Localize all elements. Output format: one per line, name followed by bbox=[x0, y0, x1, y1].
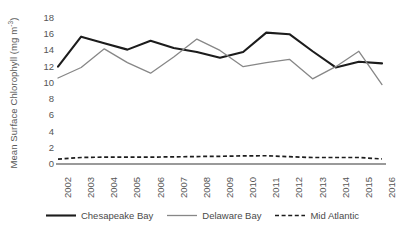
dashed-black-line-icon bbox=[275, 211, 305, 220]
legend-label: Chesapeake Bay bbox=[81, 210, 153, 221]
y-axis-title-suffix: ) bbox=[8, 17, 19, 20]
y-axis-title-exponent: -3 bbox=[7, 21, 14, 27]
y-axis-title-text: Mean Surface Chlorophyll (mg m bbox=[8, 27, 19, 169]
series-container bbox=[58, 18, 382, 164]
y-tick-label: 18 bbox=[34, 13, 54, 23]
y-tick-label: 14 bbox=[34, 45, 54, 55]
x-tick-label: 2003 bbox=[85, 164, 96, 198]
x-tick-label: 2012 bbox=[293, 164, 304, 198]
y-tick-label: 2 bbox=[34, 143, 54, 153]
y-tick-label: 8 bbox=[34, 94, 54, 104]
x-tick-label: 2005 bbox=[131, 164, 142, 198]
y-axis-tick-labels: 024681012141618 bbox=[34, 18, 54, 164]
x-tick-label: 2010 bbox=[247, 164, 258, 198]
x-tick-label: 2004 bbox=[108, 164, 119, 198]
legend-label: Mid Atlantic bbox=[310, 210, 359, 221]
legend-item-mid-atlantic[interactable]: Mid Atlantic bbox=[275, 210, 359, 221]
x-tick-label: 2009 bbox=[224, 164, 235, 198]
solid-thick-black-line-icon bbox=[46, 211, 76, 220]
x-tick-label: 2002 bbox=[62, 164, 73, 198]
x-tick-label: 2015 bbox=[363, 164, 374, 198]
x-axis-line bbox=[56, 163, 386, 165]
y-tick-label: 10 bbox=[34, 78, 54, 88]
legend-label: Delaware Bay bbox=[202, 210, 261, 221]
x-tick-label: 2013 bbox=[317, 164, 328, 198]
x-tick-label: 2008 bbox=[201, 164, 212, 198]
y-tick-label: 6 bbox=[34, 110, 54, 120]
chart-legend: Chesapeake BayDelaware BayMid Atlantic bbox=[0, 205, 405, 225]
y-tick-label: 0 bbox=[34, 159, 54, 169]
x-tick-label: 2014 bbox=[340, 164, 351, 198]
x-axis-tick-labels: 2002200320042005200620072008200920102011… bbox=[58, 166, 382, 200]
x-tick-label: 2016 bbox=[386, 164, 397, 198]
legend-item-chesapeake-bay[interactable]: Chesapeake Bay bbox=[46, 210, 153, 221]
series-line-mid-atlantic bbox=[58, 156, 382, 159]
x-tick-label: 2007 bbox=[178, 164, 189, 198]
legend-item-delaware-bay[interactable]: Delaware Bay bbox=[167, 210, 261, 221]
series-line-delaware-bay bbox=[58, 39, 382, 84]
plot-area bbox=[58, 18, 382, 164]
solid-thin-gray-line-icon bbox=[167, 211, 197, 220]
y-axis-title: Mean Surface Chlorophyll (mg m-3) bbox=[2, 8, 20, 178]
x-tick-label: 2011 bbox=[270, 164, 281, 198]
y-tick-label: 4 bbox=[34, 127, 54, 137]
y-tick-label: 12 bbox=[34, 62, 54, 72]
x-tick-label: 2006 bbox=[155, 164, 166, 198]
line-chart: Mean Surface Chlorophyll (mg m-3) 024681… bbox=[0, 0, 405, 246]
y-tick-label: 16 bbox=[34, 29, 54, 39]
